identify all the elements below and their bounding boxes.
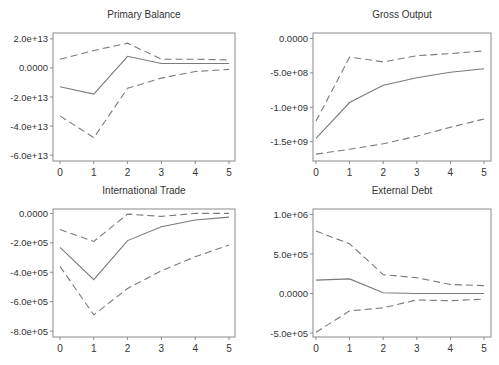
y-tick-label: -6.0e+05 (10, 296, 48, 307)
series-response-line (60, 56, 229, 94)
y-tick-label: 0.0000 (279, 33, 308, 44)
y-tick-label: 1.0e+06 (273, 209, 308, 220)
series-response-line (60, 217, 229, 280)
x-tick-label: 3 (159, 167, 165, 178)
y-tick-label: -2.0e+13 (10, 92, 48, 103)
x-tick-label: 2 (380, 167, 386, 178)
chart-title: External Debt (372, 185, 433, 196)
x-tick-label: 0 (313, 167, 319, 178)
x-tick-label: 2 (380, 343, 386, 354)
y-tick-label: -4.0e+05 (10, 267, 48, 278)
y-tick-label: 5.0e+05 (273, 249, 308, 260)
x-tick-label: 5 (226, 343, 232, 354)
y-tick-label: -2.0e+05 (10, 237, 48, 248)
x-tick-label: 2 (125, 343, 131, 354)
y-tick-label: -5.0e+08 (270, 67, 308, 78)
x-tick-label: 4 (192, 343, 198, 354)
series-lower-line (316, 119, 484, 154)
y-tick-label: -6.0e+13 (10, 150, 48, 161)
chart-title: International Trade (102, 185, 186, 196)
y-tick-label: -1.0e+09 (270, 102, 308, 113)
x-tick-label: 1 (91, 167, 97, 178)
x-tick-label: 2 (125, 167, 131, 178)
panel-gross-output: Gross Output0.0000-5.0e+08-1.0e+09-1.5e+… (270, 9, 491, 178)
y-tick-label: 2.0e+13 (13, 33, 48, 44)
x-tick-label: 0 (57, 343, 63, 354)
x-tick-label: 1 (347, 343, 353, 354)
chart-title: Gross Output (372, 9, 432, 20)
x-tick-label: 5 (226, 167, 232, 178)
y-tick-label: 0.0000 (19, 62, 48, 73)
panel-external-debt: External Debt1.0e+065.0e+050.0000-5.0e+0… (270, 185, 491, 354)
x-tick-label: 0 (313, 343, 319, 354)
y-tick-label: -8.0e+05 (10, 326, 48, 337)
x-tick-label: 1 (91, 343, 97, 354)
x-tick-label: 4 (448, 343, 454, 354)
y-tick-label: -5.0e+05 (270, 328, 308, 339)
series-lower-line (60, 69, 229, 137)
x-tick-label: 4 (192, 167, 198, 178)
panel-international-trade: International Trade0.0000-2.0e+05-4.0e+0… (10, 185, 235, 354)
plot-frame (53, 33, 235, 161)
x-tick-label: 3 (414, 167, 420, 178)
series-upper-line (316, 231, 484, 286)
x-tick-label: 1 (347, 167, 353, 178)
series-upper-line (316, 51, 484, 121)
panel-primary-balance: Primary Balance2.0e+130.0000-2.0e+13-4.0… (10, 9, 235, 178)
y-tick-label: -4.0e+13 (10, 121, 48, 132)
x-tick-label: 4 (448, 167, 454, 178)
x-tick-label: 5 (481, 167, 487, 178)
x-tick-label: 3 (159, 343, 165, 354)
series-lower-line (316, 299, 484, 332)
y-tick-label: 0.0000 (19, 208, 48, 219)
impulse-response-figure: Primary Balance2.0e+130.0000-2.0e+13-4.0… (0, 0, 499, 365)
series-upper-line (60, 43, 229, 60)
series-response-line (316, 69, 484, 139)
series-response-line (316, 279, 484, 294)
chart-title: Primary Balance (107, 9, 181, 20)
x-tick-label: 5 (481, 343, 487, 354)
x-tick-label: 0 (57, 167, 63, 178)
y-tick-label: -1.5e+09 (270, 136, 308, 147)
plot-frame (53, 209, 235, 337)
x-tick-label: 3 (414, 343, 420, 354)
y-tick-label: 0.0000 (279, 288, 308, 299)
series-lower-line (60, 245, 229, 315)
series-upper-line (60, 213, 229, 241)
